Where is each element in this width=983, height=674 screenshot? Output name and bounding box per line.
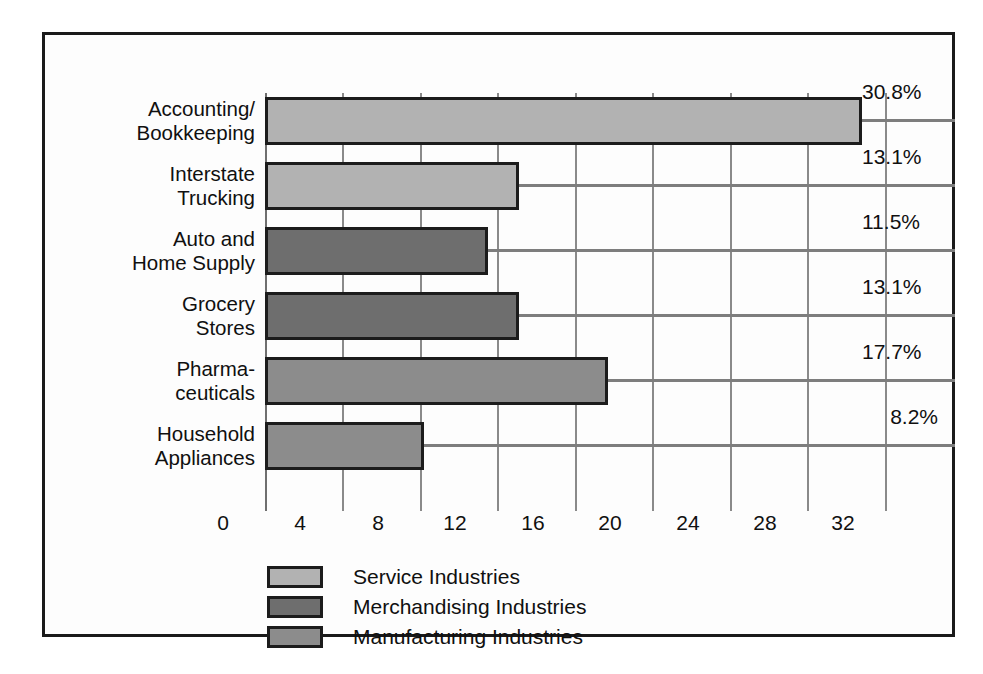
- x-tick-label: 4: [270, 511, 330, 535]
- value-label-auto-and-home-supply: 11.5%: [862, 210, 948, 234]
- legend-item-service[interactable]: Service Industries: [267, 563, 787, 591]
- legend-item-merchandising[interactable]: Merchandising Industries: [267, 593, 787, 621]
- bar-accounting-bookkeeping[interactable]: [265, 97, 862, 145]
- chart-frame: Accounting/ Bookkeeping Interstate Truck…: [42, 32, 955, 637]
- legend-swatch-icon: [267, 626, 323, 648]
- bar-pharmaceuticals[interactable]: [265, 357, 608, 405]
- category-axis: Accounting/ Bookkeeping Interstate Truck…: [63, 93, 255, 499]
- value-label-accounting-bookkeeping: 30.8%: [862, 80, 948, 104]
- x-tick-label: 24: [658, 511, 718, 535]
- plot-area: [265, 93, 885, 499]
- value-label-pharmaceuticals: 17.7%: [862, 340, 948, 364]
- x-tick-label: 8: [348, 511, 408, 535]
- leader-line: [519, 184, 955, 187]
- legend-label: Manufacturing Industries: [353, 623, 583, 651]
- x-axis-tick-labels: 0 4 8 12 16 20 24 28 32: [45, 511, 983, 545]
- chart-screenshot: Accounting/ Bookkeeping Interstate Truck…: [0, 0, 983, 674]
- x-tick-label: 32: [813, 511, 873, 535]
- x-tick-label: 0: [193, 511, 253, 535]
- legend-swatch-icon: [267, 566, 323, 588]
- category-label: Pharma- ceuticals: [65, 357, 255, 405]
- gridline-20: [652, 93, 654, 511]
- x-tick-label: 16: [503, 511, 563, 535]
- legend-swatch-icon: [267, 596, 323, 618]
- value-label-grocery-stores: 13.1%: [862, 275, 948, 299]
- bar-interstate-trucking[interactable]: [265, 162, 519, 210]
- leader-line: [424, 444, 955, 447]
- category-label: Interstate Trucking: [65, 162, 255, 210]
- gridline-16: [575, 93, 577, 511]
- category-label: Auto and Home Supply: [65, 227, 255, 275]
- bar-auto-and-home-supply[interactable]: [265, 227, 488, 275]
- category-label: Household Appliances: [65, 422, 255, 470]
- value-label-household-appliances: 8.2%: [862, 405, 938, 429]
- gridline-28: [807, 93, 809, 511]
- bar-grocery-stores[interactable]: [265, 292, 519, 340]
- x-tick-label: 28: [735, 511, 795, 535]
- bar-household-appliances[interactable]: [265, 422, 424, 470]
- legend-label: Merchandising Industries: [353, 593, 586, 621]
- gridline-24: [730, 93, 732, 511]
- leader-line: [608, 379, 955, 382]
- leader-line: [862, 119, 955, 122]
- x-tick-label: 20: [580, 511, 640, 535]
- category-label: Grocery Stores: [65, 292, 255, 340]
- x-tick-label: 12: [425, 511, 485, 535]
- value-label-interstate-trucking: 13.1%: [862, 145, 948, 169]
- category-label: Accounting/ Bookkeeping: [65, 97, 255, 145]
- leader-line: [488, 249, 955, 252]
- legend-item-manufacturing[interactable]: Manufacturing Industries: [267, 623, 787, 651]
- leader-line: [519, 314, 955, 317]
- legend-label: Service Industries: [353, 563, 520, 591]
- legend: Service Industries Merchandising Industr…: [267, 563, 787, 653]
